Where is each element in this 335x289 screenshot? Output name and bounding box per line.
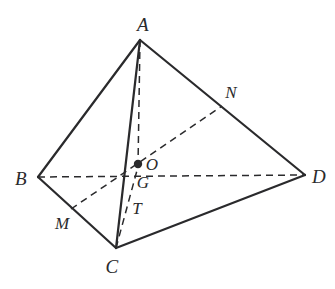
point-markers-group — [134, 160, 142, 168]
figure-background — [0, 0, 335, 289]
tetrahedron-figure: ABCDOGTMN — [0, 0, 335, 289]
point-marker-o — [134, 160, 142, 168]
geometry-canvas — [0, 0, 335, 289]
